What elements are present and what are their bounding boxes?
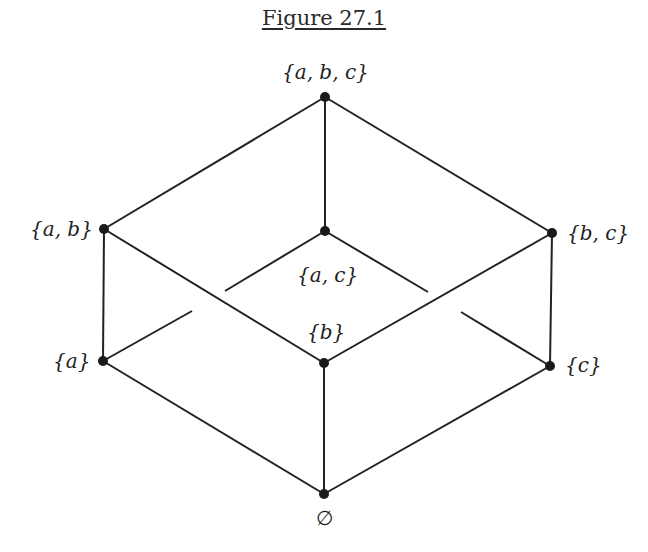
edge-ac-a-lower — [103, 311, 192, 361]
edge-bc-c — [550, 233, 552, 366]
edge-ab-a — [103, 229, 104, 361]
edge-abc-bc — [325, 97, 552, 233]
edge-bc-b — [324, 233, 552, 363]
edge-c-empty — [324, 366, 550, 494]
label-c: {c} — [565, 355, 602, 375]
label-a: {a} — [53, 351, 90, 371]
edge-abc-ab — [104, 97, 325, 229]
label-abc: {a, b, c} — [282, 62, 369, 82]
node-ac — [320, 226, 330, 236]
edge-a-empty — [103, 361, 324, 494]
label-bc: {b, c} — [567, 223, 629, 243]
node-bc — [547, 228, 557, 238]
node-ab — [99, 224, 109, 234]
node-a — [98, 356, 108, 366]
label-empty: ∅ — [316, 508, 333, 528]
node-abc — [320, 92, 330, 102]
label-ac: {a, c} — [297, 265, 358, 285]
node-b — [319, 358, 329, 368]
label-b: {b} — [307, 322, 345, 342]
label-ab: {a, b} — [30, 219, 93, 239]
node-c — [545, 361, 555, 371]
node-empty — [319, 489, 329, 499]
edge-ac-c-lower — [461, 312, 550, 366]
